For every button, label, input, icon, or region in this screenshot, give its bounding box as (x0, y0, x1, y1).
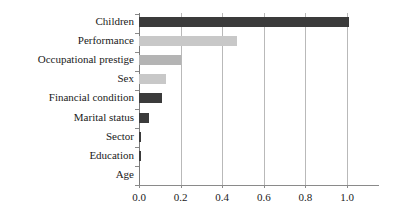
y-label-children: Children (0, 15, 134, 28)
y-label-age: Age (0, 168, 134, 181)
y-label-financial-condition: Financial condition (0, 91, 134, 104)
x-axis-line (139, 185, 379, 186)
y-label-marital-status: Marital status (0, 111, 134, 124)
y-label-sex: Sex (0, 72, 134, 85)
bar-marital-status[interactable] (139, 113, 149, 123)
x-tick-2 (222, 185, 223, 188)
y-axis-labels: Children Performance Occupational presti… (0, 13, 134, 185)
bar-occupational-prestige[interactable] (139, 55, 181, 65)
bar-performance[interactable] (139, 36, 237, 46)
bar-sex[interactable] (139, 74, 166, 84)
x-tick-label-5: 1.0 (327, 190, 367, 204)
x-tick-4 (305, 185, 306, 188)
y-label-education: Education (0, 149, 134, 162)
bar-children[interactable] (139, 17, 349, 27)
x-tick-0 (139, 185, 140, 188)
x-tick-label-2: 0.4 (202, 190, 242, 204)
x-tick-label-1: 0.2 (161, 190, 201, 204)
x-tick-label-0: 0.0 (119, 190, 159, 204)
y-tick-9 (135, 185, 139, 186)
y-label-performance: Performance (0, 34, 134, 47)
y-label-sector: Sector (0, 130, 134, 143)
x-tick-label-4: 0.8 (285, 190, 325, 204)
x-tick-1 (181, 185, 182, 188)
bar-chart: Children Performance Occupational presti… (0, 0, 394, 213)
x-tick-3 (264, 185, 265, 188)
x-tick-label-3: 0.6 (244, 190, 284, 204)
bar-sector[interactable] (139, 132, 141, 142)
x-tick-5 (347, 185, 348, 188)
y-label-occupational-prestige: Occupational prestige (0, 53, 134, 66)
bar-financial-condition[interactable] (139, 93, 162, 103)
bar-education[interactable] (139, 151, 141, 161)
bars-layer (139, 13, 394, 185)
